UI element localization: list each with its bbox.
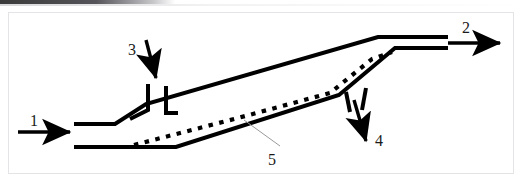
lower-branch-right-wall	[362, 88, 366, 110]
label-4: 4	[375, 133, 383, 149]
label-5: 5	[268, 152, 276, 168]
label-2: 2	[462, 20, 470, 36]
label-1: 1	[30, 113, 38, 129]
label-3: 3	[128, 42, 136, 58]
figure-container: 1 2 3 4 5	[0, 0, 523, 187]
flow-arrow-3-branch-inlet	[146, 40, 156, 78]
lower-branch-left-wall	[346, 92, 350, 112]
callout-leader-line-5	[244, 120, 280, 146]
duct-diagram-svg	[0, 0, 523, 187]
upper-branch-right-wall	[166, 86, 178, 113]
duct-centerline-dotted	[134, 52, 392, 145]
